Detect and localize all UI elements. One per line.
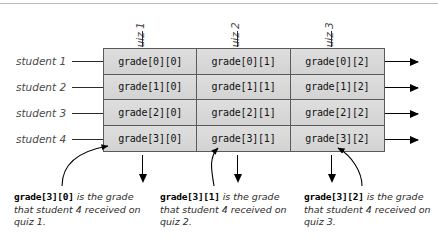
column-arrow-quiz-1 [142, 155, 143, 175]
caption-code: grade[3][1] [160, 191, 220, 202]
row-label-student-4: student 4 [16, 133, 66, 145]
caption-1-pointer [62, 146, 108, 186]
row-connector-student-4 [72, 139, 103, 140]
row-arrow-student-3 [385, 113, 418, 114]
grid-cell: grade[3][2] [291, 126, 384, 152]
grade-array-grid: grade[0][0] grade[0][1] grade[0][2] grad… [103, 48, 385, 152]
grid-cell: grade[0][1] [197, 49, 290, 75]
row-label-student-1: student 1 [16, 55, 66, 67]
row-label-student-3: student 3 [16, 107, 66, 119]
grid-cell: grade[0][2] [291, 49, 384, 75]
row-arrow-student-1 [385, 61, 418, 62]
column-tick-quiz-3 [331, 31, 332, 47]
row-arrow-student-4 [385, 139, 418, 140]
grid-cell: grade[2][2] [291, 100, 384, 126]
caption-2-pointer [212, 148, 219, 186]
grid-cell: grade[1][0] [104, 75, 197, 101]
caption-grade-3-1: grade[3][1] is the grade that student 4 … [160, 191, 292, 229]
grid-cell: grade[2][1] [197, 100, 290, 126]
caption-3-pointer [338, 148, 362, 186]
grid-cell: grade[1][2] [291, 75, 384, 101]
grid-cell: grade[1][1] [197, 75, 290, 101]
caption-code: grade[3][0] [14, 191, 74, 202]
caption-grade-3-0: grade[3][0] is the grade that student 4 … [14, 191, 146, 229]
grid-cell: grade[3][0] [104, 126, 197, 152]
column-arrow-quiz-2 [237, 155, 238, 175]
row-arrow-student-2 [385, 87, 418, 88]
caption-grade-3-2: grade[3][2] is the grade that student 4 … [304, 191, 436, 229]
column-arrow-quiz-3 [331, 155, 332, 175]
caption-code: grade[3][2] [304, 191, 364, 202]
grid-cell: grade[3][1] [197, 126, 290, 152]
row-connector-student-3 [72, 113, 103, 114]
grid-cell: grade[0][0] [104, 49, 197, 75]
row-connector-student-2 [72, 87, 103, 88]
grid-cell: grade[2][0] [104, 100, 197, 126]
row-connector-student-1 [72, 61, 103, 62]
column-tick-quiz-1 [142, 31, 143, 47]
column-tick-quiz-2 [237, 31, 238, 47]
row-label-student-2: student 2 [16, 81, 66, 93]
page-top-rule [0, 3, 438, 4]
